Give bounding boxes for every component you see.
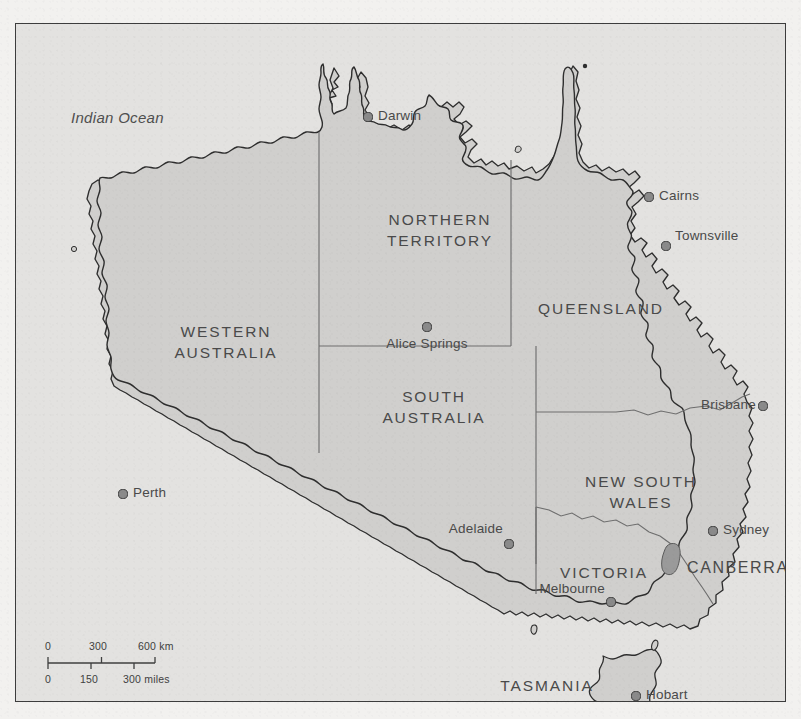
- city-marker-adelaide[interactable]: [504, 539, 513, 548]
- tasmania-shape: [589, 649, 661, 702]
- city-marker-hobart[interactable]: [631, 691, 640, 700]
- city-marker-melbourne[interactable]: [606, 597, 615, 606]
- city-marker-sydney[interactable]: [708, 526, 717, 535]
- australia-map-svg: [16, 24, 786, 702]
- australia-coastline: [97, 64, 695, 604]
- offshore-islet-qld-tip: [583, 64, 587, 68]
- offshore-islet-nt: [515, 146, 521, 152]
- city-marker-perth[interactable]: [118, 489, 127, 498]
- map-frame: Indian Ocean WESTERN AUSTRALIA NORTHERN …: [15, 23, 786, 702]
- city-marker-alice-springs[interactable]: [422, 322, 431, 331]
- king-island: [531, 625, 537, 634]
- city-marker-townsville[interactable]: [661, 241, 670, 250]
- flinders-island: [652, 640, 659, 650]
- city-marker-brisbane[interactable]: [758, 401, 767, 410]
- city-marker-cairns[interactable]: [644, 192, 653, 201]
- map-page: Indian Ocean WESTERN AUSTRALIA NORTHERN …: [0, 0, 801, 719]
- offshore-islet-wa: [71, 246, 76, 251]
- city-marker-darwin[interactable]: [363, 112, 372, 121]
